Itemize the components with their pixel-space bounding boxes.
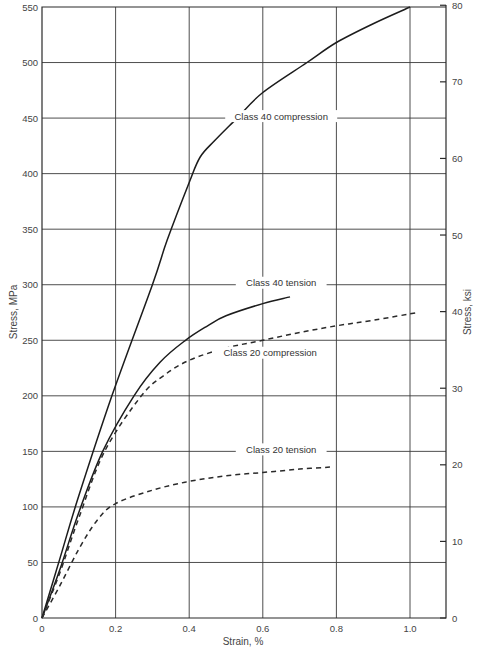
curves: [42, 7, 417, 618]
curve-class-40-tension: [42, 297, 290, 618]
y-tick-label: 150: [22, 446, 38, 457]
x-tick-label: 1.0: [403, 623, 416, 634]
x-tick-label: 0.2: [109, 623, 122, 634]
x-axis-title: Strain, %: [223, 636, 264, 647]
y-tick-label: 100: [22, 501, 38, 512]
x-tick-label: 0.6: [256, 623, 269, 634]
x-tick-label: 0: [39, 623, 44, 634]
y-tick-label: 550: [22, 2, 38, 13]
y-right-tick-label: 20: [452, 459, 463, 470]
y-right-tick-label: 60: [452, 153, 463, 164]
curve-label-class-20-tension: Class 20 tension: [246, 444, 316, 455]
y-tick-label: 450: [22, 113, 38, 124]
curve-label-class-20-compression: Class 20 compression: [223, 347, 316, 358]
plot-frame: [42, 5, 446, 618]
y-right-tick-label: 30: [452, 383, 463, 394]
y-axis-title-right: Stress, ksi: [462, 289, 473, 335]
y-right-tick-label: 0: [452, 613, 457, 624]
y-tick-label: 300: [22, 279, 38, 290]
curve-label-class-40-tension: Class 40 tension: [246, 277, 316, 288]
grid-lines: [42, 7, 446, 618]
y-tick-label: 350: [22, 224, 38, 235]
y-right-tick-label: 80: [452, 0, 463, 11]
x-tick-label: 0.4: [183, 623, 196, 634]
curve-class-20-tension: [42, 467, 333, 618]
y-right-tick-label: 50: [452, 230, 463, 241]
y-right-tick-label: 10: [452, 536, 463, 547]
y-tick-label: 400: [22, 168, 38, 179]
stress-strain-chart: Class 40 compressionClass 40 tensionClas…: [0, 0, 478, 655]
x-tick-label: 0.8: [330, 623, 343, 634]
y-tick-label: 0: [33, 613, 38, 624]
y-axis-title-left: Stress, MPa: [8, 284, 19, 339]
y-right-tick-label: 40: [452, 306, 463, 317]
y-tick-label: 500: [22, 57, 38, 68]
y-tick-label: 200: [22, 390, 38, 401]
y-tick-label: 250: [22, 335, 38, 346]
curve-labels: Class 40 compressionClass 40 tensionClas…: [214, 110, 337, 455]
y-right-tick-label: 70: [452, 76, 463, 87]
curve-class-40-compression: [42, 7, 410, 618]
curve-label-class-40-compression: Class 40 compression: [234, 111, 327, 122]
y-tick-label: 50: [27, 557, 38, 568]
